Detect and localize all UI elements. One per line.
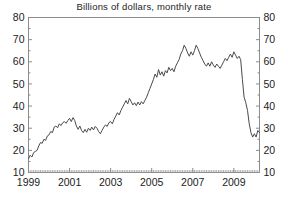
y-axis-label-left: 80 bbox=[13, 11, 25, 23]
y-axis-label-right: 10 bbox=[264, 166, 276, 178]
y-axis-right-ticks bbox=[256, 18, 260, 173]
x-axis-tick-label: 1999 bbox=[17, 176, 41, 188]
y-axis-label-left: 20 bbox=[13, 144, 25, 156]
y-axis-label-right: 20 bbox=[264, 144, 276, 156]
y-axis-label-right: 60 bbox=[264, 55, 276, 67]
x-axis-tick-label: 2005 bbox=[140, 176, 164, 188]
y-axis-label-left: 60 bbox=[13, 55, 25, 67]
x-axis-tick-labels: 199920012003200520072009 bbox=[17, 176, 246, 188]
y-axis-label-right: 80 bbox=[264, 11, 276, 23]
x-axis-tick-label: 2009 bbox=[222, 176, 246, 188]
chart-container: Billions of dollars, monthly rate 102030… bbox=[0, 0, 288, 197]
plot-frame-rect bbox=[29, 18, 260, 173]
y-axis-label-left: 30 bbox=[13, 122, 25, 134]
y-axis-label-left: 70 bbox=[13, 33, 25, 45]
y-axis-label-left: 40 bbox=[13, 100, 25, 112]
y-axis-label-right: 30 bbox=[264, 122, 276, 134]
y-axis-label-right: 50 bbox=[264, 78, 276, 90]
y-axis-left-labels: 1020304050607080 bbox=[13, 11, 25, 178]
plot-frame bbox=[29, 18, 260, 173]
y-axis-label-right: 70 bbox=[264, 33, 276, 45]
y-axis-label-right: 40 bbox=[264, 100, 276, 112]
x-axis-tick-label: 2007 bbox=[181, 176, 205, 188]
y-axis-left-ticks bbox=[29, 18, 33, 173]
x-axis-tick-label: 2001 bbox=[58, 176, 82, 188]
x-axis-tick-label: 2003 bbox=[99, 176, 123, 188]
data-series-line bbox=[29, 45, 260, 159]
y-axis-label-left: 50 bbox=[13, 78, 25, 90]
line-chart-plot: 1020304050607080 1020304050607080 199920… bbox=[0, 0, 288, 197]
y-axis-right-labels: 1020304050607080 bbox=[264, 11, 276, 178]
